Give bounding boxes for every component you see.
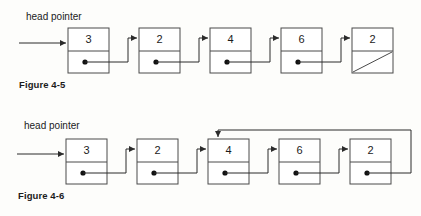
node-fig45-2: 2 bbox=[139, 28, 180, 73]
node-fig46-3: 4 bbox=[208, 139, 249, 184]
figure-caption-4-5: Figure 4-5 bbox=[19, 79, 65, 90]
node-value-fig45-5: 2 bbox=[369, 33, 375, 45]
node-value-fig46-3: 4 bbox=[225, 144, 231, 156]
node-value-fig45-4: 6 bbox=[298, 33, 304, 45]
node-value-fig46-2: 2 bbox=[154, 144, 160, 156]
node-fig46-1: 3 bbox=[66, 139, 107, 184]
figure-caption-4-6: Figure 4-6 bbox=[18, 190, 64, 201]
node-fig46-5: 2 bbox=[350, 139, 391, 184]
node-fig46-2: 2 bbox=[137, 139, 178, 184]
node-value-fig46-1: 3 bbox=[83, 144, 89, 156]
linked-list-diagram-page: head pointer 3 2 4 bbox=[0, 0, 421, 216]
node-value-fig45-2: 2 bbox=[156, 33, 162, 45]
node-value-fig46-4: 6 bbox=[296, 144, 302, 156]
node-value-fig45-3: 4 bbox=[227, 33, 233, 45]
node-fig45-4: 6 bbox=[281, 28, 322, 73]
node-value-fig46-5: 2 bbox=[367, 144, 373, 156]
node-fig45-1: 3 bbox=[68, 28, 109, 73]
node-value-fig45-1: 3 bbox=[85, 33, 91, 45]
head-pointer-label-fig46: head pointer bbox=[24, 120, 80, 131]
node-fig45-5: 2 bbox=[352, 28, 393, 73]
figure-4-5-graphic: 3 2 4 6 2 bbox=[0, 0, 421, 216]
node-fig45-3: 4 bbox=[210, 28, 251, 73]
node-fig46-4: 6 bbox=[279, 139, 320, 184]
